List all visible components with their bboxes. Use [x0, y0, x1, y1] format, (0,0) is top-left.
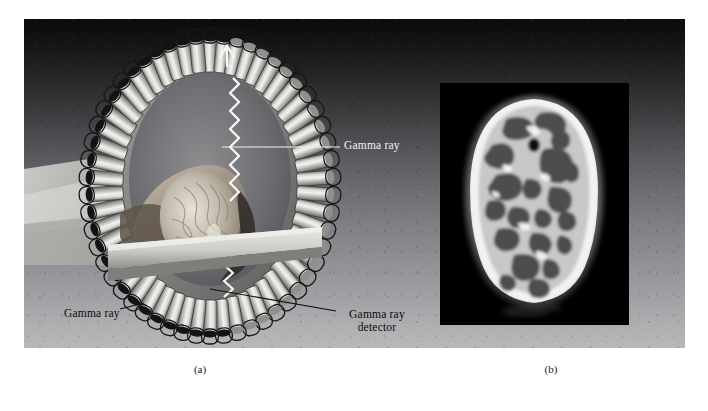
pet-brain-scan-image	[440, 83, 629, 325]
caption-panel-a: (a)	[180, 363, 220, 375]
label-gamma-ray-detector-line1: Gamma ray	[349, 308, 405, 320]
caption-panel-b: (b)	[531, 363, 571, 375]
figure-plate: Gamma ray Gamma ray Gamma ray detector	[24, 19, 685, 348]
label-gamma-ray-detector: Gamma ray detector	[340, 308, 414, 334]
label-gamma-ray-detector-line2: detector	[358, 321, 397, 333]
scanner-diagram-svg	[24, 19, 424, 348]
label-gamma-ray-left: Gamma ray	[64, 307, 120, 320]
label-gamma-ray-top: Gamma ray	[344, 139, 400, 152]
panel-b-pet-scan	[440, 83, 629, 325]
panel-a-scanner-illustration	[24, 19, 424, 348]
